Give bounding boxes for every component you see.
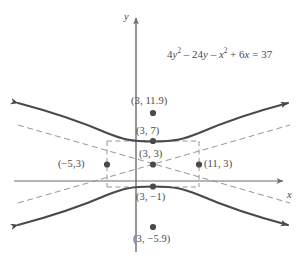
label-focus-lower: (3, −5.9) [133,234,170,245]
equation-operator-2: – [208,48,219,60]
y-axis-label: y [124,12,129,23]
point-box-left [104,161,110,167]
equation-equals: = [249,48,261,60]
label-focus-upper: (3, 11.9) [131,96,167,107]
x-axis-label: x [287,190,292,201]
point-vertex-lower [150,183,156,189]
point-box-right [196,161,202,167]
hyperbola-figure: 4y2 – 24y – x2 + 6x = 37 y x (3, 11.9) (… [0,0,307,272]
label-center: (3, 3) [139,149,162,160]
label-box-right: (11, 3) [204,159,232,170]
point-vertex-upper [150,138,156,144]
equation-rhs: 37 [261,48,272,60]
equation-annotation: 4y2 – 24y – x2 + 6x = 37 [167,49,272,60]
point-focus-lower [150,224,156,230]
label-vertex-lower: (3, −1) [136,192,165,203]
point-center [150,161,156,167]
equation-operator-3: + [227,48,239,60]
point-focus-upper [150,110,156,116]
label-box-left: (−5,3) [58,159,85,170]
equation-coefficient-b: 24 [192,48,203,60]
equation-operator-1: – [181,48,192,60]
label-vertex-upper: (3, 7) [136,126,159,137]
